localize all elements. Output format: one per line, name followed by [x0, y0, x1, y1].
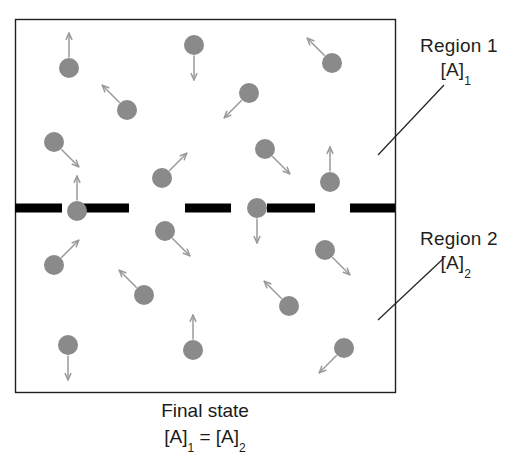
- region-1-concentration: [A]1: [414, 60, 498, 83]
- particle-dot-9: [320, 172, 340, 192]
- diffusion-diagram: Region 1 [A]1 Region 2 [A]2 Final state …: [0, 0, 521, 459]
- particle-dot-7: [255, 139, 275, 159]
- particle-dot-8: [152, 168, 172, 188]
- figure-caption: Final state [A]1 = [A]2: [0, 400, 410, 451]
- membrane-segment-4: [267, 204, 315, 213]
- eq-left-subscript: 1: [187, 441, 194, 455]
- particle-dot-6: [44, 132, 64, 152]
- membrane-segment-1: [15, 204, 62, 213]
- membrane-segment-5: [350, 204, 395, 213]
- region-2-conc-base: [A]: [440, 252, 464, 273]
- particle-dot-1: [59, 58, 79, 78]
- particle-dot-14: [44, 255, 64, 275]
- region-1-conc-subscript: 1: [464, 74, 471, 88]
- region-2-concentration: [A]2: [414, 253, 498, 276]
- eq-left-base: [A]: [164, 426, 187, 447]
- region-2-title: Region 2: [420, 228, 498, 249]
- particle-dot-11: [247, 198, 267, 218]
- caption-equation: [A]1 = [A]2: [0, 426, 410, 451]
- particle-dot-19: [334, 338, 354, 358]
- eq-right-base: [A]: [216, 426, 239, 447]
- particle-dot-5: [239, 83, 259, 103]
- region-1-title: Region 1: [420, 35, 498, 56]
- particle-dot-13: [315, 240, 335, 260]
- region-2-conc-subscript: 2: [464, 267, 471, 281]
- eq-operator: =: [194, 426, 216, 447]
- region-1-conc-base: [A]: [440, 59, 464, 80]
- particle-dot-17: [58, 335, 78, 355]
- region-1-label: Region 1 [A]1: [420, 36, 498, 83]
- particle-dot-18: [183, 340, 203, 360]
- region-2-label: Region 2 [A]2: [420, 229, 498, 276]
- particle-dot-10: [67, 201, 87, 221]
- particle-dot-3: [322, 53, 342, 73]
- particle-dot-12: [155, 221, 175, 241]
- caption-title: Final state: [0, 400, 410, 422]
- particle-dot-15: [134, 285, 154, 305]
- membrane-segment-3: [185, 204, 231, 213]
- particle-dot-2: [184, 35, 204, 55]
- particle-dot-16: [279, 296, 299, 316]
- membrane-segment-2: [82, 204, 129, 213]
- particle-dot-4: [117, 100, 137, 120]
- eq-right-subscript: 2: [239, 441, 246, 455]
